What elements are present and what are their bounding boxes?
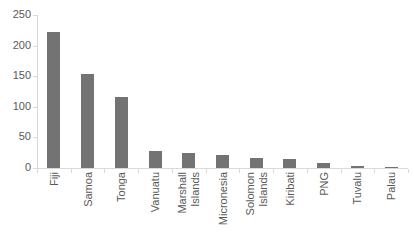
x-axis-category-label-text: Fiji xyxy=(48,172,60,186)
x-axis-category-label-lines: Vanuatu xyxy=(139,172,172,238)
x-axis-category-label-text: Micronesia xyxy=(217,172,229,225)
bars-group xyxy=(37,15,408,168)
y-axis-tick-label: 100 xyxy=(0,101,31,112)
x-axis-line xyxy=(37,168,408,169)
x-axis-category-label: Samoa xyxy=(71,172,104,238)
x-axis-category-label-text: Marshall xyxy=(176,172,188,214)
x-axis-category-label-text: Tuvalu xyxy=(351,172,363,205)
bar xyxy=(47,32,60,168)
x-axis-category-label-text: Samoa xyxy=(82,172,94,207)
x-axis-category-label: Kiribati xyxy=(273,172,306,238)
x-axis-category-label: MarshallIslands xyxy=(172,172,205,238)
bar-chart: 050100150200250 FijiSamoaTongaVanuatuMar… xyxy=(0,0,414,238)
x-axis-category-label-lines: Palau xyxy=(375,172,408,238)
x-axis-tick-mark xyxy=(408,169,409,173)
x-axis-category-label-text: Islands xyxy=(257,172,269,207)
x-axis-category-label-lines: Kiribati xyxy=(273,172,306,238)
x-axis-category-label: Palau xyxy=(375,172,408,238)
x-axis-category-label: SolomonIslands xyxy=(240,172,273,238)
bar xyxy=(317,163,330,168)
bar xyxy=(115,97,128,168)
x-axis-category-label-text: Solomon xyxy=(244,172,256,215)
bar xyxy=(216,155,229,168)
x-axis-category-label: Micronesia xyxy=(206,172,239,238)
bar xyxy=(385,167,398,168)
bar xyxy=(351,166,364,168)
x-axis-category-label-text: Palau xyxy=(385,172,397,200)
x-axis-category-label: Tuvalu xyxy=(341,172,374,238)
x-axis-category-label: PNG xyxy=(307,172,340,238)
y-axis-tick-label: 0 xyxy=(0,162,31,173)
y-axis-tick-label: 200 xyxy=(0,40,31,51)
x-axis-category-label: Fiji xyxy=(37,172,70,238)
bar xyxy=(283,159,296,168)
y-axis-tick-labels: 050100150200250 xyxy=(0,0,31,238)
x-axis-category-label-lines: MarshallIslands xyxy=(172,172,205,238)
x-axis-category-label-lines: Tuvalu xyxy=(341,172,374,238)
y-axis-tick-label: 150 xyxy=(0,70,31,81)
y-axis-tick-label: 250 xyxy=(0,9,31,20)
x-axis-category-label-text: Vanuatu xyxy=(149,172,161,212)
x-axis-category-label: Tonga xyxy=(105,172,138,238)
x-axis-category-labels: FijiSamoaTongaVanuatuMarshallIslandsMicr… xyxy=(37,172,408,238)
x-axis-category-label-lines: Tonga xyxy=(105,172,138,238)
x-axis-category-label-lines: PNG xyxy=(307,172,340,238)
x-axis-category-label-lines: Samoa xyxy=(71,172,104,238)
y-axis-tick-label: 50 xyxy=(0,131,31,142)
bar xyxy=(149,151,162,168)
bar xyxy=(250,158,263,168)
x-axis-category-label-text: Tonga xyxy=(115,172,127,202)
x-axis-category-label-text: Kiribati xyxy=(284,172,296,206)
x-axis-category-label-text: Islands xyxy=(189,172,201,207)
x-axis-category-label-lines: Fiji xyxy=(37,172,70,238)
x-axis-category-label: Vanuatu xyxy=(139,172,172,238)
x-axis-category-label-lines: SolomonIslands xyxy=(240,172,273,238)
bar xyxy=(182,153,195,168)
x-axis-category-label-text: PNG xyxy=(318,172,330,196)
x-axis-category-label-lines: Micronesia xyxy=(206,172,239,238)
bar xyxy=(81,74,94,168)
